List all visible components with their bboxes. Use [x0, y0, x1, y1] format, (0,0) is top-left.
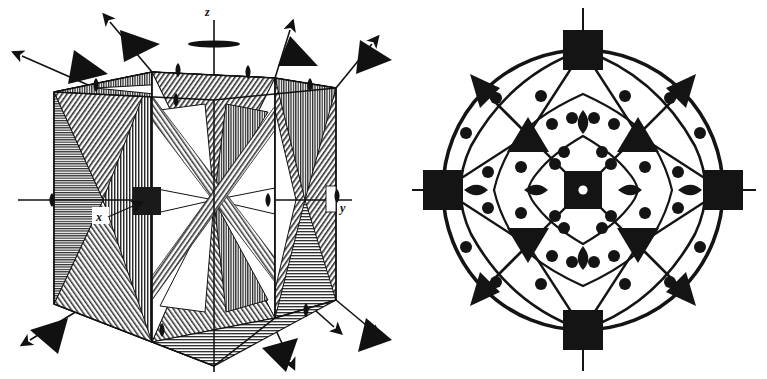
axis-label-z: z — [204, 5, 210, 19]
cube-svg: z — [0, 0, 400, 379]
cube-symmetry-panel: z — [0, 0, 400, 379]
axis-label-y: y — [338, 201, 346, 215]
fourfold-square-y — [326, 186, 336, 212]
stereogram-svg — [400, 0, 767, 379]
z-axis-top-lens — [188, 40, 240, 47]
stereographic-projection-panel — [400, 0, 767, 379]
axis-label-x: x — [95, 210, 102, 224]
fourfold-centre-dot — [578, 185, 587, 194]
fourfold-square-x — [133, 187, 161, 215]
figure-canvas: z — [0, 0, 767, 379]
